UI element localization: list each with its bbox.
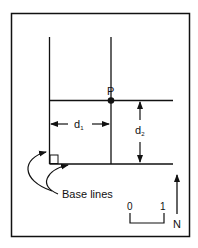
callout-arrow-vertical-base [28, 152, 52, 191]
scale-start-label: 0 [127, 201, 133, 212]
scale-bar [130, 213, 164, 223]
right-angle-marker [50, 155, 58, 164]
point-p-label: P [107, 85, 114, 97]
base-line-diagram: P d1 d2 Base lines 0 1 N [0, 0, 198, 248]
point-p-dot [108, 97, 115, 104]
d2-label: d2 [135, 124, 145, 137]
d1-label: d1 [74, 118, 84, 131]
north-label: N [173, 218, 181, 230]
scale-end-label: 1 [160, 201, 166, 212]
base-lines-label: Base lines [62, 188, 113, 200]
